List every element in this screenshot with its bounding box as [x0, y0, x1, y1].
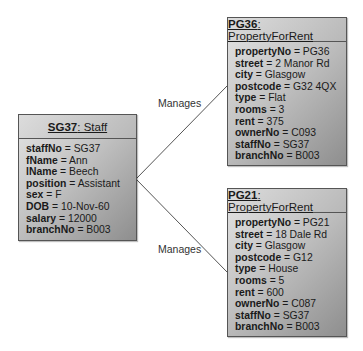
object-header: PG36: PropertyForRent	[228, 18, 346, 42]
attribute-row: branchNo = B003	[26, 224, 136, 236]
attribute-row: postcode = G32 4QX	[235, 81, 346, 93]
attribute-row: type = Flat	[235, 92, 346, 104]
object-id: PG21	[228, 189, 257, 201]
object-attributes: propertyNo = PG21 street = 18 Dale Rd ci…	[228, 213, 346, 333]
attribute-row: ownerNo = C093	[235, 127, 346, 139]
object-id: PG36	[228, 18, 257, 30]
attribute-row: rooms = 5	[235, 275, 346, 287]
object-attributes: propertyNo = PG36 street = 2 Manor Rd ci…	[228, 42, 346, 162]
attribute-row: fName = Ann	[26, 155, 136, 167]
attribute-row: propertyNo = PG21	[235, 217, 346, 229]
attribute-row: city = Glasgow	[235, 240, 346, 252]
attribute-row: staffNo = SG37	[235, 139, 346, 151]
attribute-row: rent = 600	[235, 287, 346, 299]
object-property-pg21: PG21: PropertyForRent propertyNo = PG21 …	[227, 188, 347, 337]
object-class: : Staff	[77, 121, 107, 133]
attribute-row: propertyNo = PG36	[235, 46, 346, 58]
attribute-row: type = House	[235, 263, 346, 275]
attribute-row: postcode = G12	[235, 252, 346, 264]
attribute-row: salary = 12000	[26, 213, 136, 225]
object-property-pg36: PG36: PropertyForRent propertyNo = PG36 …	[227, 17, 347, 166]
object-header: PG21: PropertyForRent	[228, 189, 346, 213]
attribute-row: staffNo = SG37	[26, 143, 136, 155]
attribute-row: branchNo = B003	[235, 321, 346, 333]
attribute-row: city = Glasgow	[235, 69, 346, 81]
link-label-manages-pg36: Manages	[158, 97, 201, 109]
attribute-row: street = 2 Manor Rd	[235, 58, 346, 70]
object-staff-sg37: SG37: Staff staffNo = SG37 fName = Ann l…	[18, 114, 137, 241]
object-attributes: staffNo = SG37 fName = Ann lName = Beech…	[19, 139, 136, 236]
attribute-row: branchNo = B003	[235, 150, 346, 162]
attribute-row: ownerNo = C087	[235, 298, 346, 310]
attribute-row: lName = Beech	[26, 166, 136, 178]
attribute-row: staffNo = SG37	[235, 310, 346, 322]
attribute-row: sex = F	[26, 189, 136, 201]
object-header: SG37: Staff	[19, 115, 136, 139]
attribute-row: position = Assistant	[26, 178, 136, 190]
attribute-row: DOB = 10-Nov-60	[26, 201, 136, 213]
attribute-row: rooms = 3	[235, 104, 346, 116]
attribute-row: street = 18 Dale Rd	[235, 229, 346, 241]
link-label-manages-pg21: Manages	[158, 243, 201, 255]
attribute-row: rent = 375	[235, 116, 346, 128]
object-id: SG37	[48, 121, 77, 133]
